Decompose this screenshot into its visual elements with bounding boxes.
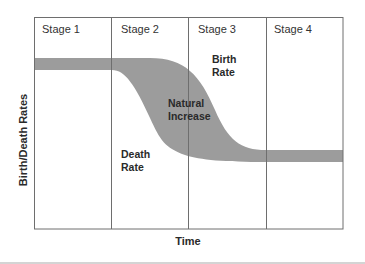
y-axis-label: Birth/Death Rates xyxy=(17,80,29,200)
stage-1-label: Stage 1 xyxy=(42,23,80,35)
natural-increase-line-2: Increase xyxy=(168,110,211,123)
death-rate-line-2: Rate xyxy=(121,161,150,174)
x-axis-label: Time xyxy=(168,235,208,247)
natural-increase-label: Natural Increase xyxy=(168,97,211,123)
death-rate-line-1: Death xyxy=(121,148,150,161)
natural-increase-line-1: Natural xyxy=(168,97,211,110)
birth-rate-line-2: Rate xyxy=(212,66,237,79)
death-rate-label: Death Rate xyxy=(121,148,150,174)
stage-2-label: Stage 2 xyxy=(121,23,159,35)
stage-3-label: Stage 3 xyxy=(198,23,236,35)
stage-4-label: Stage 4 xyxy=(274,23,312,35)
birth-rate-line-1: Birth xyxy=(212,53,237,66)
birth-rate-label: Birth Rate xyxy=(212,53,237,79)
demographic-transition-diagram xyxy=(0,0,365,264)
